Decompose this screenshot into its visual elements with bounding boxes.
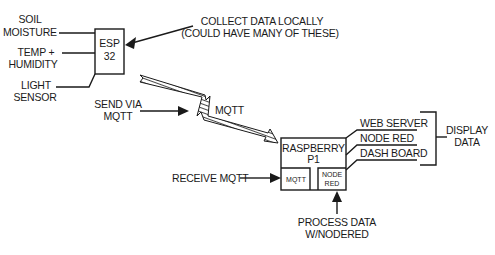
output-node-red: NODE RED [360, 132, 414, 144]
arrow-head-icon [178, 106, 189, 116]
mqtt-link: MQTT [140, 75, 278, 143]
sensor-soil-line2: MOISTURE [3, 26, 57, 38]
raspberry-pi-node: RASPBERRY P1 MQTT NODE RED [281, 138, 346, 190]
display-note-line1: DISPLAY [446, 124, 488, 136]
send-note-line2: MQTT [104, 110, 134, 122]
send-note-line1: SEND VIA [94, 98, 142, 110]
sensor-light: LIGHT SENSOR [13, 74, 95, 103]
collect-note-line2: (COULD HAVE MANY OF THESE) [181, 27, 339, 39]
collect-note-line1: COLLECT DATA LOCALLY [201, 15, 324, 27]
sensor-soil-moisture: SOIL MOISTURE [3, 13, 95, 38]
sensor-temp-humidity: TEMP + HUMIDITY [8, 46, 95, 70]
output-web-server: WEB SERVER [360, 117, 428, 129]
receive-note: RECEIVE MQTT [172, 172, 281, 184]
sensor-light-line2: SENSOR [13, 91, 57, 103]
zigzag-lightning-arrow-icon [140, 75, 278, 143]
receive-note-label: RECEIVE MQTT [172, 172, 249, 184]
process-note-line2: W/NODERED [305, 228, 369, 240]
output-dash-board-line [346, 160, 417, 170]
arrow-head-icon [270, 173, 281, 183]
iot-architecture-diagram: SOIL MOISTURE TEMP + HUMIDITY LIGHT SENS… [0, 0, 495, 255]
raspberry-pi-label-line2: P1 [307, 153, 320, 165]
light-connector [56, 74, 95, 87]
sensor-temp-line2: HUMIDITY [8, 58, 57, 70]
process-note-line1: PROCESS DATA [298, 216, 377, 228]
outputs: WEB SERVER NODE RED DASH BOARD [346, 117, 428, 170]
arrow-head-icon [125, 37, 136, 49]
output-dash-board: DASH BOARD [360, 147, 428, 159]
mqtt-link-label: MQTT [215, 104, 245, 116]
nodered-module-label-line1: NODE [322, 171, 343, 178]
sensor-light-line1: LIGHT [21, 79, 52, 91]
collect-note: COLLECT DATA LOCALLY (COULD HAVE MANY OF… [125, 15, 339, 49]
nodered-module-label-line2: RED [325, 180, 340, 187]
sensor-soil-line1: SOIL [18, 13, 41, 25]
send-note: SEND VIA MQTT [94, 98, 189, 122]
sensor-temp-line1: TEMP + [18, 46, 55, 58]
arrow-head-icon [332, 191, 342, 202]
display-note-line2: DATA [454, 136, 480, 148]
process-note: PROCESS DATA W/NODERED [298, 191, 377, 240]
esp32-node: ESP 32 [95, 29, 124, 74]
mqtt-module-label: MQTT [286, 176, 307, 184]
display-note: DISPLAY DATA [420, 112, 488, 165]
esp32-label-line2: 32 [104, 50, 116, 62]
esp32-label-line1: ESP [99, 37, 120, 49]
